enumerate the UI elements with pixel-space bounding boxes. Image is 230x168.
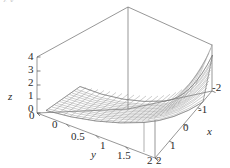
y-tick-1-5: 1.5 — [117, 150, 131, 161]
z-tick-4: 4 — [28, 51, 34, 62]
x-tick-2: 2 — [156, 155, 162, 166]
plot-canvas — [0, 0, 230, 168]
z-axis-label: z — [8, 91, 12, 102]
y-axis-label: y — [91, 149, 96, 160]
y-tick-0: 0 — [52, 119, 58, 130]
x-tick-neg2: -2 — [212, 82, 221, 93]
z-tick-1: 1 — [28, 90, 34, 101]
x-axis-label: x — [207, 126, 212, 137]
x-tick-1: 1 — [170, 140, 176, 151]
y-tick-1: 1 — [100, 140, 106, 151]
x-tick-0: 0 — [183, 122, 189, 133]
y-tick-2: 2 — [147, 155, 153, 166]
y-tick-origin: 0 — [29, 110, 35, 121]
z-tick-3: 3 — [28, 64, 34, 75]
surface-plot-figure: z y — [0, 0, 230, 168]
surface-mesh-v-lines — [46, 44, 212, 123]
z-axis-ticks — [37, 57, 41, 113]
x-tick-neg1: -1 — [198, 104, 207, 115]
y-tick-0-5: 0.5 — [71, 131, 85, 142]
z-tick-2: 2 — [28, 77, 34, 88]
